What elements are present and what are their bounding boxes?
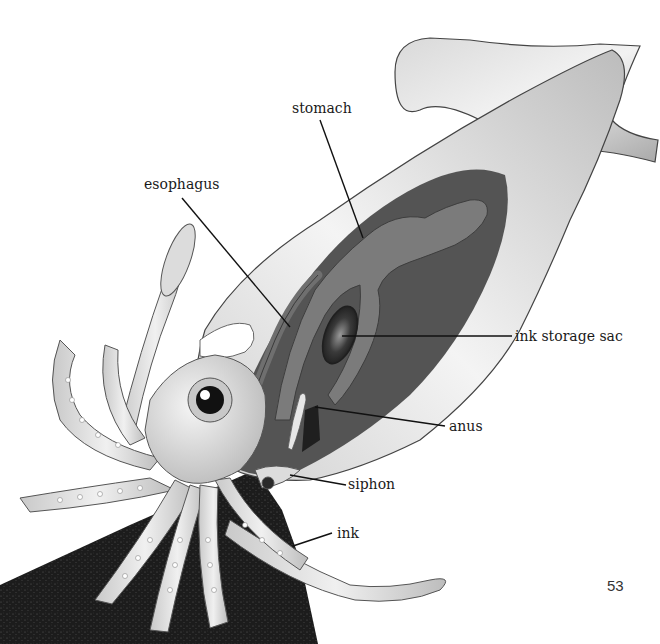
page-number: 53 [607, 577, 624, 594]
label-esophagus: esophagus [144, 177, 219, 191]
label-anus: anus [449, 419, 483, 433]
label-ink: ink [337, 526, 359, 540]
label-ink-storage-sac: ink storage sac [515, 329, 623, 343]
squid-anatomy-illustration [0, 0, 660, 644]
label-siphon: siphon [348, 477, 395, 491]
eye [188, 378, 232, 422]
leader-ink [293, 533, 332, 546]
label-stomach: stomach [292, 101, 352, 115]
